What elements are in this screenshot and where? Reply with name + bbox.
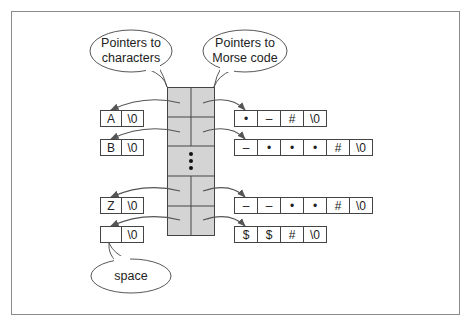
morse-symbol: •	[313, 199, 317, 213]
morse-symbol: #	[289, 228, 296, 242]
svg-text:Z: Z	[107, 199, 114, 213]
char-string-A: A \0	[101, 111, 144, 127]
morse-symbol: •	[290, 199, 294, 213]
morse-pointer-diagram: Pointers to characters Pointers to Morse…	[0, 0, 470, 323]
callout-space: space	[91, 243, 171, 293]
svg-text:\0: \0	[127, 141, 137, 155]
svg-text:\0: \0	[127, 199, 137, 213]
callout-characters-line1: Pointers to	[101, 36, 161, 50]
pointer-column	[168, 88, 215, 236]
svg-text:\0: \0	[127, 112, 137, 126]
morse-symbol: •	[267, 141, 271, 155]
morse-symbol: –	[266, 112, 273, 126]
morse-string-A: •–#\0	[235, 111, 327, 127]
morse-symbol: #	[289, 112, 296, 126]
svg-text:\0: \0	[127, 228, 137, 242]
morse-symbol: •	[244, 112, 248, 126]
ellipsis-dots-icon	[189, 152, 193, 170]
morse-symbol: •	[290, 141, 294, 155]
morse-symbol: #	[335, 141, 342, 155]
morse-symbol: –	[266, 199, 273, 213]
morse-symbol: $	[243, 228, 250, 242]
morse-symbol: $	[266, 228, 273, 242]
char-string-Z: Z \0	[101, 198, 144, 214]
morse-string-Z: ––••#\0	[235, 198, 373, 214]
svg-text:A: A	[107, 112, 115, 126]
morse-symbol: \0	[310, 228, 320, 242]
char-string-space: \0	[101, 227, 144, 243]
callout-characters: Pointers to characters	[90, 30, 172, 87]
morse-symbol: •	[313, 141, 317, 155]
char-string-B: B \0	[101, 140, 144, 156]
morse-symbol: \0	[356, 199, 366, 213]
callout-characters-line2: characters	[102, 51, 160, 65]
callout-morse: Pointers to Morse code	[203, 30, 287, 87]
callout-morse-line1: Pointers to	[215, 36, 275, 50]
morse-string-space: $$#\0	[235, 227, 327, 243]
morse-symbol: \0	[310, 112, 320, 126]
svg-text:B: B	[107, 141, 115, 155]
morse-symbol: \0	[356, 141, 366, 155]
morse-symbol: –	[243, 141, 250, 155]
morse-symbol: #	[335, 199, 342, 213]
callout-space-label: space	[114, 269, 147, 283]
morse-strings: •–#\0–•••#\0––••#\0$$#\0	[235, 111, 373, 243]
morse-string-B: –•••#\0	[235, 140, 373, 156]
morse-symbol: –	[243, 199, 250, 213]
callout-morse-line2: Morse code	[212, 51, 277, 65]
